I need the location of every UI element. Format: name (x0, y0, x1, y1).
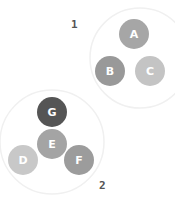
node-C[interactable]: C (135, 56, 165, 86)
node-G[interactable]: G (37, 97, 67, 127)
group-2-label: 2 (99, 179, 106, 192)
node-A[interactable]: A (119, 19, 149, 49)
diagram-canvas: ABCGEDF 1 2 (0, 0, 175, 200)
node-label: A (130, 28, 139, 41)
node-label: D (18, 154, 27, 167)
node-label: E (48, 138, 56, 151)
node-F[interactable]: F (64, 145, 94, 175)
node-B[interactable]: B (95, 56, 125, 86)
node-label: G (47, 106, 56, 119)
node-E[interactable]: E (37, 129, 67, 159)
node-label: C (146, 65, 154, 78)
node-label: B (106, 65, 114, 78)
diagram-svg: ABCGEDF (0, 0, 175, 200)
group-1-label: 1 (71, 18, 78, 31)
node-D[interactable]: D (8, 145, 38, 175)
node-label: F (75, 154, 83, 167)
